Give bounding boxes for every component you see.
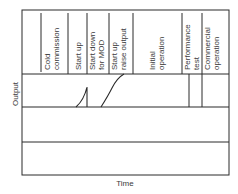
phase-label-cold-line2: commission xyxy=(52,28,61,70)
commissioning-output-diagram: Cold commission Start up Start down for … xyxy=(0,0,238,194)
x-axis-label: Time xyxy=(116,179,134,188)
phase-labels: Cold commission Start up Start down for … xyxy=(43,24,221,70)
phase-label-commercial-line2: operation xyxy=(212,37,221,70)
phase-label-initial-line2: operation xyxy=(157,37,166,70)
phase-label-startdown-line2: for MOD xyxy=(97,40,106,70)
startup-curve xyxy=(76,87,87,107)
raise-output-curve xyxy=(101,74,124,107)
phase-label-initial-line1: Initial xyxy=(148,51,157,70)
phase-label-startup: Start up xyxy=(74,41,83,70)
phase-label-raise-line2: raise output xyxy=(119,27,128,70)
phase-label-startdown-line1: Start down xyxy=(88,32,97,70)
phase-label-performance-line2: test xyxy=(192,56,201,70)
phase-label-raise-line1: Start up xyxy=(110,41,119,70)
y-axis-label: Output xyxy=(11,81,20,106)
phase-label-performance-line1: Performance xyxy=(183,24,192,70)
phase-label-commercial-line1: Commercial xyxy=(203,27,212,70)
phase-label-cold-line1: Cold xyxy=(43,54,52,70)
